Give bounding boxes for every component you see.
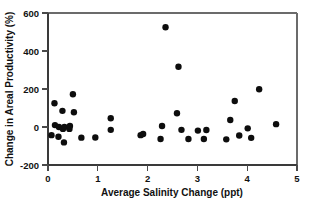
y-tick-label-200: 200 bbox=[23, 84, 39, 95]
data-point bbox=[245, 125, 251, 131]
data-point bbox=[61, 139, 67, 145]
data-point bbox=[248, 135, 254, 141]
x-tick-label-5: 5 bbox=[294, 173, 300, 184]
y-tick-label-400: 400 bbox=[23, 46, 39, 57]
data-point bbox=[162, 24, 168, 30]
data-point bbox=[195, 127, 201, 133]
data-point bbox=[59, 108, 65, 114]
data-point bbox=[159, 123, 165, 129]
x-tick-label-3: 3 bbox=[195, 173, 200, 184]
data-point bbox=[67, 123, 73, 129]
x-axis: 0 1 2 3 4 5 Average Salinity Change (ppt… bbox=[45, 165, 300, 198]
data-point bbox=[70, 91, 76, 97]
x-tick-label-2: 2 bbox=[145, 173, 150, 184]
data-point bbox=[92, 134, 98, 140]
data-point bbox=[51, 100, 57, 106]
data-point bbox=[71, 109, 77, 115]
y-axis-title: Change in Areal Productivity (%) bbox=[4, 12, 15, 167]
data-point bbox=[157, 136, 163, 142]
data-point bbox=[223, 136, 229, 142]
x-tick-label-4: 4 bbox=[245, 173, 251, 184]
data-point bbox=[227, 117, 233, 123]
data-point bbox=[256, 86, 262, 92]
data-point-series bbox=[48, 24, 279, 146]
data-point bbox=[201, 136, 207, 142]
data-point bbox=[174, 110, 180, 116]
data-point bbox=[140, 131, 146, 137]
y-tick-label-minus200: -200 bbox=[20, 160, 39, 171]
data-point bbox=[236, 132, 242, 138]
scatter-plot-figure: 600 400 200 0 -200 Change in Areal Produ… bbox=[0, 0, 314, 210]
data-point bbox=[78, 134, 84, 140]
data-point bbox=[48, 132, 54, 138]
y-axis: 600 400 200 0 -200 Change in Areal Produ… bbox=[4, 8, 48, 171]
data-point bbox=[108, 115, 114, 121]
data-point bbox=[108, 127, 114, 133]
data-point bbox=[178, 127, 184, 133]
x-tick-label-0: 0 bbox=[45, 173, 50, 184]
x-tick-label-1: 1 bbox=[95, 173, 101, 184]
x-axis-title: Average Salinity Change (ppt) bbox=[101, 187, 243, 198]
data-point bbox=[232, 98, 238, 104]
chart-canvas: 600 400 200 0 -200 Change in Areal Produ… bbox=[0, 0, 314, 210]
data-point bbox=[203, 127, 209, 133]
y-tick-label-0: 0 bbox=[34, 122, 39, 133]
data-point bbox=[55, 133, 61, 139]
data-point bbox=[273, 121, 279, 127]
y-tick-label-600: 600 bbox=[23, 8, 39, 19]
data-point bbox=[175, 64, 181, 70]
data-point bbox=[185, 136, 191, 142]
